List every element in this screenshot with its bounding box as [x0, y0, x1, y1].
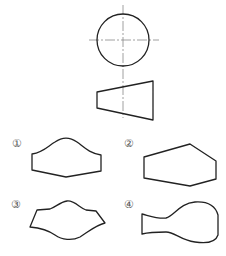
option-1-shape: [32, 138, 101, 177]
option-2-label: ②: [122, 138, 136, 150]
option-4-label: ④: [122, 199, 136, 211]
front-view-trapezoid: [97, 81, 153, 120]
option-3-shape: [30, 201, 105, 240]
option-4-shape: [142, 202, 218, 243]
option-2-shape: [144, 144, 216, 186]
option-3-label: ③: [9, 199, 23, 211]
top-view-circle-group: [89, 5, 159, 118]
projection-diagram: ① ② ③ ④: [0, 0, 226, 256]
option-1-label: ①: [10, 138, 24, 150]
